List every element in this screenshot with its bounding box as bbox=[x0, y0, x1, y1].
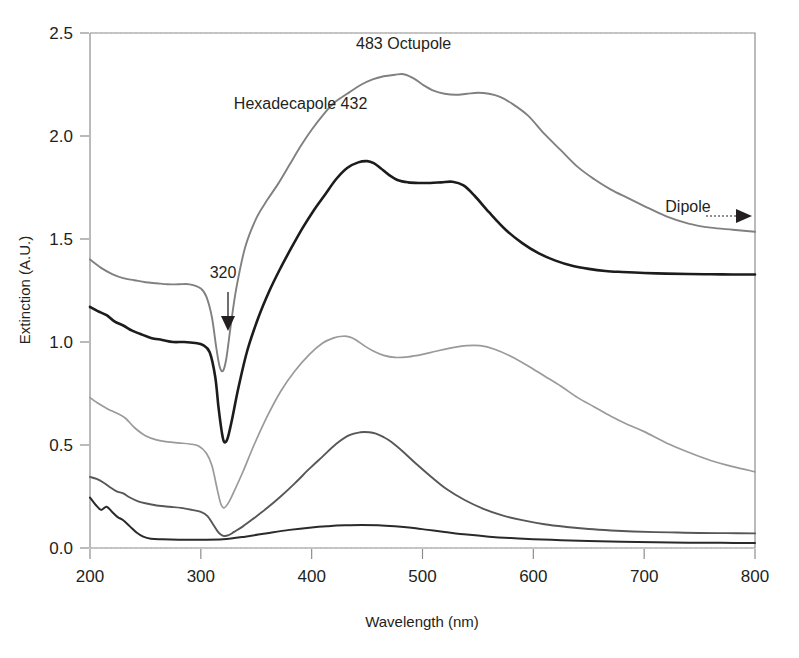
dipole-label: Dipole bbox=[665, 198, 710, 215]
chart-canvas: 0.00.51.01.52.02.5 200300400500600700800… bbox=[0, 0, 799, 658]
x-tick-label: 800 bbox=[741, 567, 769, 586]
y-axis-ticks: 0.00.51.01.52.02.5 bbox=[49, 24, 89, 558]
y-tick-label: 2.0 bbox=[49, 127, 73, 146]
hexadecapole-label: Hexadecapole 432 bbox=[234, 95, 368, 112]
x-tick-label: 700 bbox=[630, 567, 658, 586]
series-line bbox=[90, 74, 755, 371]
y-tick-label: 2.5 bbox=[49, 24, 73, 43]
y-tick-label: 0.0 bbox=[49, 539, 73, 558]
plot-frame bbox=[90, 33, 755, 548]
dip-arrow-head bbox=[221, 316, 235, 331]
data-curves bbox=[90, 74, 755, 543]
series-line bbox=[90, 498, 755, 544]
x-axis-ticks: 200300400500600700800 bbox=[76, 549, 769, 586]
series-line bbox=[90, 336, 755, 508]
series-line bbox=[90, 432, 755, 536]
y-tick-label: 1.5 bbox=[49, 230, 73, 249]
dipole-pointer bbox=[706, 209, 752, 223]
chart-annotations: 483 OctupoleHexadecapole 432320Dipole bbox=[210, 35, 711, 281]
series-line bbox=[90, 161, 755, 442]
x-axis-title: Wavelength (nm) bbox=[365, 613, 479, 630]
dip-label: 320 bbox=[210, 264, 237, 281]
x-tick-label: 600 bbox=[519, 567, 547, 586]
y-axis-title: Extinction (A.U.) bbox=[16, 236, 33, 344]
x-tick-label: 400 bbox=[297, 567, 325, 586]
x-tick-label: 200 bbox=[76, 567, 104, 586]
dipole-arrow-head bbox=[736, 209, 752, 223]
axes-border bbox=[90, 33, 755, 548]
octupole-label: 483 Octupole bbox=[356, 35, 451, 52]
x-tick-label: 500 bbox=[408, 567, 436, 586]
x-tick-label: 300 bbox=[187, 567, 215, 586]
extinction-spectra-chart: 0.00.51.01.52.02.5 200300400500600700800… bbox=[0, 0, 799, 658]
y-tick-label: 0.5 bbox=[49, 436, 73, 455]
y-tick-label: 1.0 bbox=[49, 333, 73, 352]
